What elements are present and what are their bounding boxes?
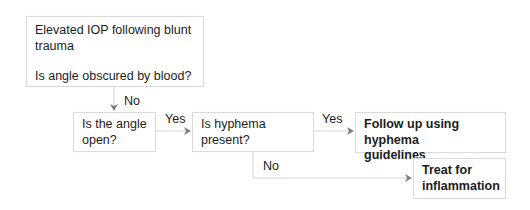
node-angle-open-line1: Is the angle	[82, 117, 147, 133]
arrowhead-right-icon	[347, 127, 354, 135]
node-start-line2: trauma	[35, 39, 195, 55]
node-follow-up: Follow up using hyphema guidelines	[355, 112, 506, 153]
node-start-line1: Elevated IOP following blunt	[35, 23, 195, 39]
node-treat-line1: Treat for	[422, 163, 497, 179]
arrowhead-right-icon	[405, 174, 412, 182]
edge-label-no-2: No	[263, 159, 279, 173]
edge-label-yes-1: Yes	[165, 112, 185, 126]
node-start: Elevated IOP following blunt trauma Is a…	[26, 16, 204, 87]
node-hyphema-present: Is hyphema present?	[192, 112, 314, 152]
node-angle-open: Is the angle open?	[73, 112, 156, 152]
flowchart-canvas: Elevated IOP following blunt trauma Is a…	[0, 0, 530, 210]
node-treat-line2: inflammation	[422, 179, 497, 195]
edge-label-yes-2: Yes	[322, 112, 342, 126]
node-hyphema-line2: present?	[201, 133, 305, 149]
node-hyphema-line1: Is hyphema	[201, 117, 305, 133]
arrowhead-down-icon	[110, 104, 118, 111]
spacer	[35, 54, 195, 69]
edge-label-no-1: No	[124, 94, 140, 108]
arrowhead-right-icon	[184, 127, 191, 135]
node-treat: Treat for inflammation	[413, 158, 506, 199]
node-angle-open-line2: open?	[82, 133, 147, 149]
node-start-question: Is angle obscured by blood?	[35, 69, 195, 85]
node-follow-up-line1: Follow up using hyphema	[364, 117, 497, 148]
